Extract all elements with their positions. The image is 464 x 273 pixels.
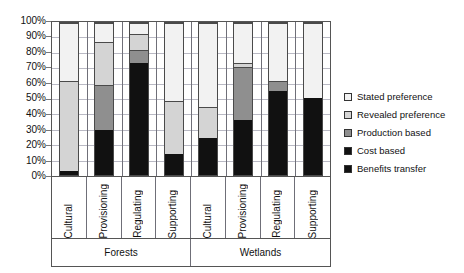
y-tick-label: 60% <box>26 78 46 88</box>
stacked-bar[interactable] <box>129 22 149 176</box>
y-tick-label: 70% <box>26 62 46 72</box>
bar-slot <box>122 22 157 176</box>
y-tick-label: 0% <box>32 171 46 181</box>
bar-segment-benefits <box>95 130 113 175</box>
bar-segment-benefits <box>199 138 217 176</box>
bar-slot <box>261 22 296 176</box>
x-axis-category-labels: CulturalProvisioningRegulatingSupporting… <box>51 177 331 239</box>
x-axis-category-cell: Supporting <box>295 177 330 238</box>
bar-segment-production <box>95 85 113 131</box>
x-axis-category-cell: Regulating <box>122 177 157 238</box>
bar-segment-production <box>269 81 287 91</box>
bar-segment-stated <box>199 23 217 107</box>
x-axis-category-label: Cultural <box>64 204 74 238</box>
bar-segment-production <box>130 50 148 63</box>
y-tick-label: 10% <box>26 156 46 166</box>
legend-item[interactable]: Stated preference <box>344 88 462 105</box>
bar-segment-revealed <box>95 42 113 85</box>
stacked-bar-chart: 100% 90% 80% 70% 60% 50% 40% 30% 20% 10%… <box>0 0 464 273</box>
x-axis-category-label: Supporting <box>308 190 318 238</box>
legend-label: Cost based <box>357 146 405 156</box>
y-axis: 100% 90% 80% 70% 60% 50% 40% 30% 20% 10%… <box>0 0 46 273</box>
y-tick-label: 40% <box>26 109 46 119</box>
legend-item[interactable]: Cost based <box>344 142 462 159</box>
plot-area <box>51 21 331 177</box>
bar-slot <box>295 22 330 176</box>
bar-segment-benefits <box>269 91 287 175</box>
x-axis-group-cell: Forests <box>52 239 191 266</box>
legend-label: Benefits transfer <box>357 164 426 174</box>
bar-segment-production <box>234 67 252 120</box>
bar-slot <box>87 22 122 176</box>
stacked-bar[interactable] <box>94 22 114 176</box>
x-axis-group-cell: Wetlands <box>191 239 330 266</box>
x-axis-category-cell: Regulating <box>261 177 296 238</box>
bar-segment-revealed <box>60 81 78 171</box>
y-tick-label: 90% <box>26 31 46 41</box>
bar-segment-stated <box>165 23 183 101</box>
legend-item[interactable]: Production based <box>344 124 462 141</box>
x-axis-category-cell: Provisioning <box>226 177 261 238</box>
stacked-bar[interactable] <box>59 22 79 176</box>
bar-segment-stated <box>130 23 148 34</box>
bar-segment-stated <box>234 23 252 63</box>
stacked-bar[interactable] <box>164 22 184 176</box>
bar-segment-benefits <box>304 98 322 175</box>
legend: Stated preferenceRevealed preferenceProd… <box>344 88 462 178</box>
legend-swatch-cost <box>344 147 352 155</box>
x-axis-category-cell: Cultural <box>191 177 226 238</box>
bar-slot <box>156 22 191 176</box>
bar-segment-stated <box>95 23 113 42</box>
legend-swatch-revealed <box>344 111 352 119</box>
y-tick-label: 20% <box>26 140 46 150</box>
bar-segment-benefits <box>130 63 148 175</box>
x-axis-category-label: Supporting <box>168 190 178 238</box>
x-axis-group-label: Forests <box>104 247 137 258</box>
bar-segment-stated <box>304 23 322 98</box>
bar-slot <box>191 22 226 176</box>
x-axis-group-labels: ForestsWetlands <box>51 239 331 267</box>
x-axis-category-cell: Provisioning <box>87 177 122 238</box>
bar-segment-revealed <box>199 107 217 138</box>
y-tick-label: 50% <box>26 93 46 103</box>
stacked-bar[interactable] <box>268 22 288 176</box>
bar-slot <box>226 22 261 176</box>
stacked-bar[interactable] <box>303 22 323 176</box>
bar-slot <box>52 22 87 176</box>
legend-swatch-stated <box>344 93 352 101</box>
bar-segment-revealed <box>165 101 183 155</box>
bar-segment-stated <box>60 23 78 81</box>
bar-segment-benefits <box>165 154 183 175</box>
bar-segment-revealed <box>130 34 148 50</box>
y-tick-label: 100% <box>20 16 46 26</box>
legend-swatch-production <box>344 129 352 137</box>
bar-segment-stated <box>269 23 287 81</box>
y-tick-label: 30% <box>26 125 46 135</box>
x-axis-category-label: Provisioning <box>238 184 248 238</box>
legend-label: Revealed preference <box>357 110 445 120</box>
legend-item[interactable]: Revealed preference <box>344 106 462 123</box>
x-axis-group-label: Wetlands <box>240 247 282 258</box>
x-axis-category-label: Cultural <box>203 204 213 238</box>
legend-label: Stated preference <box>357 92 433 102</box>
bar-segment-benefits <box>234 120 252 175</box>
x-axis-category-label: Regulating <box>272 190 282 238</box>
stacked-bar[interactable] <box>233 22 253 176</box>
x-axis-category-label: Provisioning <box>99 184 109 238</box>
legend-swatch-benefits <box>344 165 352 173</box>
x-axis-category-label: Regulating <box>133 190 143 238</box>
x-axis-category-cell: Supporting <box>156 177 191 238</box>
x-axis-category-cell: Cultural <box>52 177 87 238</box>
y-tick-label: 80% <box>26 47 46 57</box>
stacked-bar[interactable] <box>198 22 218 176</box>
bar-segment-benefits <box>60 171 78 175</box>
legend-label: Production based <box>357 128 431 138</box>
legend-item[interactable]: Benefits transfer <box>344 160 462 177</box>
bar-series-container <box>52 22 330 176</box>
